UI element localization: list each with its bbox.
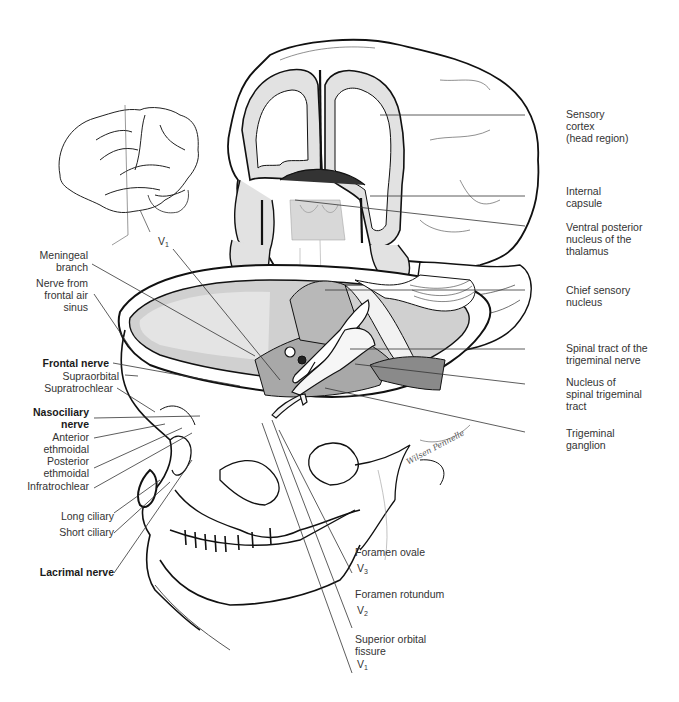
label-meningeal-branch: Meningealbranch (40, 249, 88, 273)
label-spinal-tract: Spinal tract of thetrigeminal nerve (566, 342, 648, 366)
label-nasociliary-nerve: Nasociliarynerve (33, 406, 89, 430)
label-frontal-nerve: Frontal nerve (42, 357, 109, 369)
label-long-ciliary: Long ciliary (61, 510, 114, 522)
label-sensory-cortex: Sensorycortex(head region) (566, 108, 628, 144)
label-lacrimal-nerve: Lacrimal nerve (40, 566, 114, 578)
label-nucleus-spinal-tract: Nucleus ofspinal trigeminaltract (566, 376, 642, 412)
label-anterior-ethmoidal: Anteriorethmoidal (43, 431, 89, 455)
label-chief-sensory-nucleus: Chief sensorynucleus (566, 284, 630, 308)
label-ventral-posterior-nucleus: Ventral posteriornucleus of thethalamus (566, 221, 642, 257)
label-superior-orbital-fissure: Superior orbitalfissure V1 (355, 633, 426, 674)
label-infratrochlear: Infratrochlear (27, 480, 89, 492)
label-posterior-ethmoidal: Posteriorethmoidal (43, 455, 89, 479)
label-internal-capsule: Internalcapsule (566, 185, 602, 209)
svg-text:Wilsen Pennelle: Wilsen Pennelle (405, 428, 466, 466)
label-foramen-ovale: Foramen ovale V3 (355, 546, 425, 578)
label-short-ciliary: Short ciliary (59, 526, 114, 538)
label-nerve-from-frontal-air-sinus: Nerve fromfrontal airsinus (36, 277, 88, 313)
label-trigeminal-ganglion: Trigeminalganglion (566, 427, 615, 451)
label-foramen-rotundum: Foramen rotundum V2 (355, 588, 444, 620)
label-supraorbital: Supraorbital (62, 370, 119, 382)
inset-brain (59, 105, 198, 245)
label-v1-top: V1 (158, 235, 169, 251)
label-supratrochlear: Supratrochlear (44, 382, 113, 394)
